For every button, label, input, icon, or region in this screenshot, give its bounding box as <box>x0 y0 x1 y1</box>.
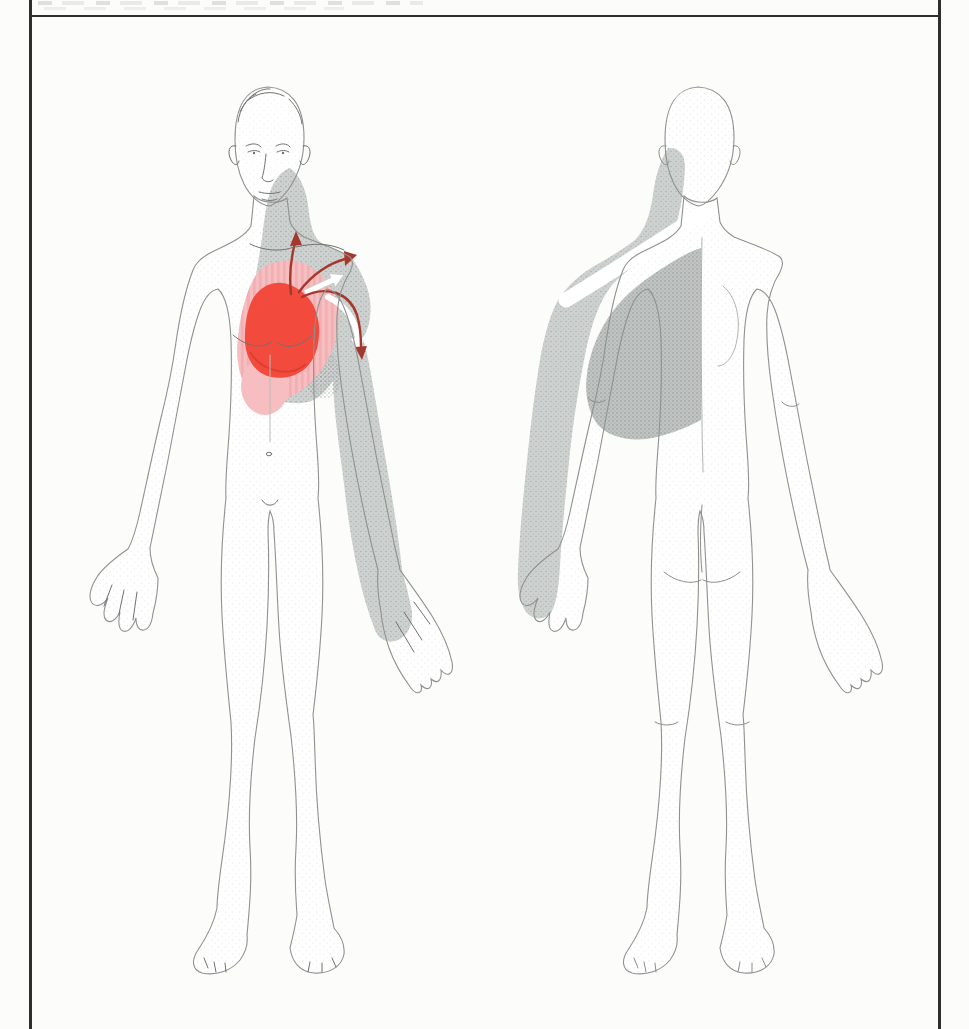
scanned-page <box>0 0 969 1029</box>
frame-top-rule <box>29 15 941 17</box>
left-pupil <box>253 152 255 154</box>
right-pupil <box>282 152 284 154</box>
gluteal-cleft <box>701 505 703 572</box>
posterior-figure <box>518 87 883 974</box>
anterior-figure <box>90 87 452 974</box>
frame-right-border <box>938 0 941 1029</box>
pain-referral-illustration <box>0 0 969 1029</box>
inner-arm-gray-stipple <box>333 310 412 642</box>
frame-left-border <box>29 0 32 1029</box>
